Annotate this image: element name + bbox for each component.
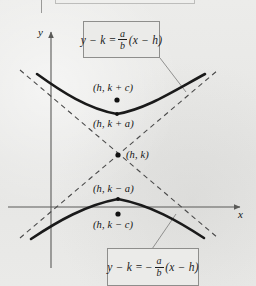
center-label: (h, k)	[126, 149, 149, 160]
y-axis-label: y	[38, 26, 43, 38]
x-axis-label: x	[238, 208, 243, 220]
lower-equation-fraction: a b	[155, 256, 164, 278]
upper-asymptote-equation: y − k = a b (x − h)	[81, 29, 162, 51]
upper-focus-dot	[114, 97, 119, 102]
upper-equation-lhs: y − k =	[81, 34, 117, 46]
lower-asymptote-equation-box: y − k = − a b (x − h)	[107, 248, 199, 286]
lower-equation-lhs: y − k =	[107, 261, 143, 273]
lower-equation-rhs: (x − h)	[165, 261, 198, 273]
upper-asymptote-equation-box: y − k = a b (x − h)	[83, 21, 160, 58]
upper-equation-fraction: a b	[118, 29, 127, 51]
lower-focus-dot	[115, 211, 120, 216]
lower-vertex-label: (h, k − a)	[93, 183, 134, 194]
upper-vertex-dot	[115, 112, 119, 116]
lower-vertex-dot	[116, 197, 120, 201]
lower-equation-sign: −	[145, 261, 153, 273]
lower-asymptote-equation: y − k = − a b (x − h)	[107, 256, 198, 278]
upper-equation-rhs: (x − h)	[129, 34, 162, 46]
lower-equation-numerator: a	[155, 256, 164, 267]
upper-branch	[37, 74, 205, 114]
upper-vertex-label: (h, k + a)	[93, 118, 134, 129]
center-dot	[115, 152, 120, 157]
lower-equation-denominator: b	[155, 268, 164, 279]
upper-equation-denominator: b	[118, 40, 127, 51]
upper-focus-label: (h, k + c)	[93, 82, 133, 93]
upper-equation-numerator: a	[118, 29, 127, 40]
lower-focus-label: (h, k − c)	[93, 219, 133, 230]
hyperbola-figure: y x (h, k + c) (h, k + a) (h, k) (h, k −…	[0, 0, 256, 286]
